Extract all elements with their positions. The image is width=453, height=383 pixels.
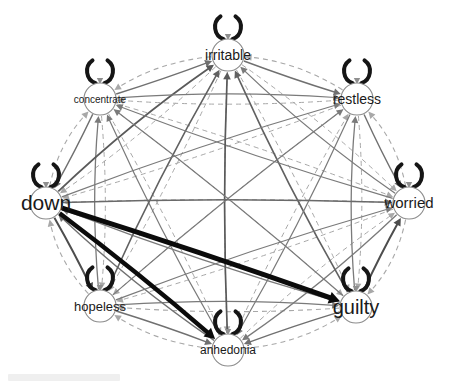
self-loop-right-arc	[104, 267, 113, 290]
edge-restless-concentrate	[117, 97, 340, 104]
edge-concentrate-restless	[117, 94, 340, 101]
edge-line	[107, 74, 217, 290]
edge-arrowhead-icon	[114, 315, 121, 321]
node-hopeless: hopeless	[74, 267, 127, 322]
edge-guilty-hopeless	[117, 304, 339, 311]
self-loop-left-arc	[343, 268, 352, 291]
self-loop-left-arc	[215, 311, 224, 334]
node-label-anhedonia: anhedonia	[200, 343, 256, 357]
self-loop-left-arc	[33, 164, 42, 187]
edge-line	[62, 218, 214, 340]
edge-arrowhead-icon	[114, 84, 121, 90]
edge-arrowhead-icon	[223, 72, 231, 80]
edge-worried-restless	[368, 112, 405, 187]
edge-line	[372, 115, 406, 186]
edge-arrowhead-icon	[206, 65, 214, 72]
edge-line	[371, 220, 406, 291]
edge-arrowhead-icon	[242, 334, 250, 341]
node-irritable: irritable	[205, 16, 251, 71]
edge-hopeless-anhedonia	[116, 311, 212, 345]
symptom-network-svg: irritablerestlessworriedguiltyanhedoniah…	[0, 0, 453, 383]
self-loop-right-arc	[232, 16, 241, 39]
edge-guilty-irritable	[235, 71, 348, 293]
edge-line	[51, 224, 89, 293]
edge-anhedonia-guilty	[245, 316, 342, 348]
network-figure: irritablerestlessworriedguiltyanhedoniah…	[0, 0, 453, 383]
edge-line	[122, 308, 339, 312]
edge-anhedonia-irritable	[223, 72, 231, 333]
edge-arrowhead-icon	[336, 109, 344, 116]
edge-line	[250, 57, 343, 90]
edge-arrowhead-icon	[351, 116, 358, 123]
edge-arrowhead-icon	[114, 109, 122, 116]
edge-worried-guilty	[367, 220, 405, 295]
cropped-caption-artifact	[8, 374, 120, 381]
node-label-irritable: irritable	[205, 47, 251, 63]
self-loop-left-arc	[215, 16, 224, 39]
node-worried: worried	[383, 164, 433, 219]
edge-line	[249, 312, 340, 343]
edge-arrowhead-icon	[94, 116, 101, 123]
edge-down-worried	[63, 199, 392, 206]
node-label-worried: worried	[383, 194, 433, 211]
self-loop-right-arc	[361, 60, 370, 83]
edge-down-concentrate	[50, 112, 89, 187]
edge-line	[351, 121, 355, 290]
edge-irritable-down	[60, 67, 216, 194]
self-loop-left-arc	[344, 60, 353, 83]
self-loop-right-arc	[360, 268, 369, 291]
self-loop-left-arc	[87, 267, 96, 290]
self-loop-right-arc	[413, 164, 422, 187]
edge-line	[122, 100, 340, 104]
node-restless: restless	[333, 60, 381, 115]
edge-down-irritable	[58, 65, 214, 192]
edge-hopeless-concentrate	[94, 116, 101, 289]
edge-hopeless-guilty	[117, 301, 339, 308]
self-loop-right-arc	[232, 311, 241, 334]
edge-irritable-concentrate	[114, 57, 211, 90]
self-loop-left-arc	[87, 60, 96, 83]
edge-arrowhead-icon	[48, 220, 55, 227]
node-label-guilty: guilty	[333, 296, 380, 318]
node-label-restless: restless	[333, 91, 381, 107]
edge-guilty-restless	[351, 116, 358, 290]
edge-line	[245, 319, 338, 349]
self-loop-right-arc	[104, 60, 113, 83]
node-label-concentrate: concentrate	[74, 94, 127, 105]
edge-line	[50, 115, 86, 186]
edge-restless-guilty	[355, 116, 362, 290]
edge-line	[225, 77, 228, 333]
node-label-hopeless: hopeless	[74, 299, 127, 314]
edge-line	[118, 57, 211, 88]
edge-line	[95, 121, 99, 289]
edge-concentrate-hopeless	[99, 116, 106, 289]
edge-line	[102, 116, 106, 285]
node-label-down: down	[21, 191, 71, 214]
